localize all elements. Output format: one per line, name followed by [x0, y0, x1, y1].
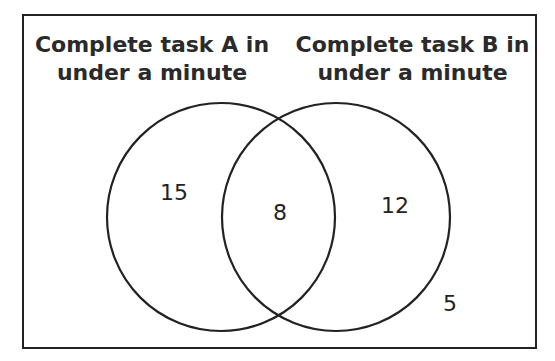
outside-count: 5 [443, 291, 457, 316]
set-b-only-count: 12 [381, 193, 409, 218]
intersection-count: 8 [273, 200, 287, 225]
venn-circles [0, 0, 555, 361]
set-a-only-count: 15 [160, 180, 188, 205]
